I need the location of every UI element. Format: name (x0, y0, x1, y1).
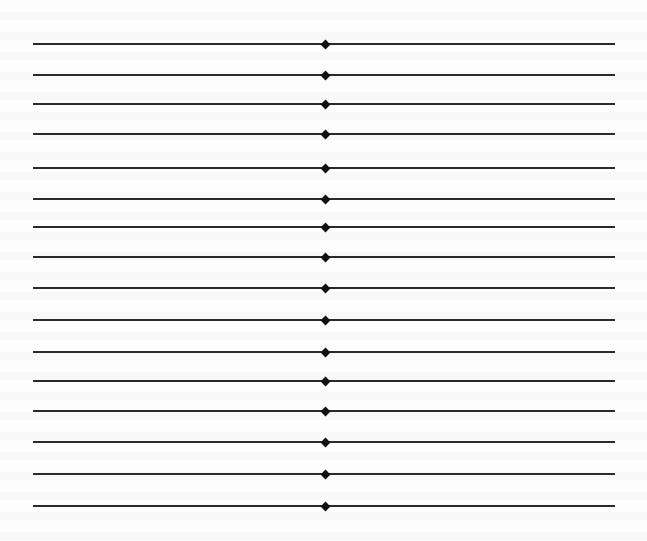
show-through-background (0, 0, 647, 541)
diamond-marker-icon (320, 99, 330, 109)
diamond-marker-icon (320, 347, 330, 357)
diamond-marker-icon (320, 406, 330, 416)
diamond-marker-icon (320, 315, 330, 325)
diamond-marker-icon (320, 70, 330, 80)
diamond-marker-icon (320, 376, 330, 386)
diamond-marker-icon (320, 252, 330, 262)
diamond-marker-icon (320, 469, 330, 479)
diamond-marker-icon (320, 163, 330, 173)
ruled-page (0, 0, 647, 541)
diamond-marker-icon (320, 283, 330, 293)
diamond-marker-icon (320, 437, 330, 447)
diamond-marker-icon (320, 194, 330, 204)
diamond-marker-icon (320, 501, 330, 511)
diamond-marker-icon (320, 39, 330, 49)
diamond-marker-icon (320, 222, 330, 232)
diamond-marker-icon (320, 129, 330, 139)
